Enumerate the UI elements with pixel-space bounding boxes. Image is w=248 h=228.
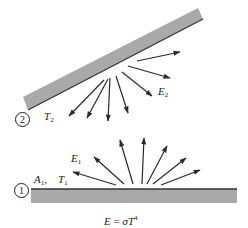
surface-2-emission-label: E2 [158,86,168,101]
radiation-exchange-diagram [0,0,248,228]
surface-2-emission-arrow-icon [87,79,108,118]
surface-2-emission-arrow-icon [116,76,128,113]
surface-2-emission-arrow-icon [122,72,152,96]
surface-1-area-label: A1, [34,174,47,189]
surface-1-emission-arrow-icon [147,146,167,184]
surface-2-number-badge: 2 [15,112,30,127]
surface-2-temperature-label: T2 [44,111,54,126]
surface-1-emission-label: E1 [71,153,81,168]
surface-1-emission-arrow-icon [73,172,116,185]
surface-1-temperature-label: T1 [58,174,68,189]
surface-1-emission-arrow-icon [142,138,144,184]
surface-2-emission-arrow-icon [108,78,110,121]
surface-2-emission-arrow-icon [137,52,180,61]
surface-2-emission-arrow-icon [128,66,170,78]
surface-1-emission-arrow-icon [120,140,133,184]
surface-2-plate [23,8,203,110]
surface-1-plate [31,189,237,203]
surface-1-emission-arrow-icon [153,158,186,184]
surface-1-emission-arrow-icon [161,170,200,185]
surface-1-emission-arrows [73,138,200,185]
surface-1-number-badge: 1 [14,183,29,198]
stefan-boltzmann-equation: E = σT4 [104,213,138,227]
